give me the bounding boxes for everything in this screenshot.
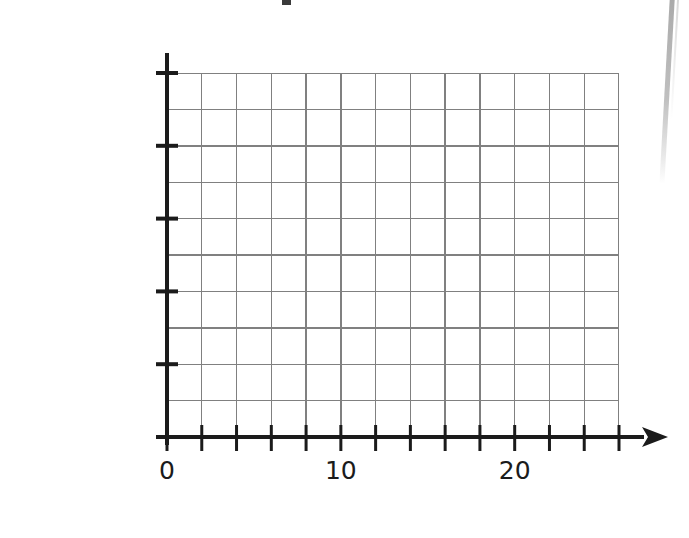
chart-gridlines (167, 73, 619, 437)
plot-area (167, 73, 619, 437)
x-axis-arrow-icon (642, 427, 668, 447)
cropped-title-remnant (282, 0, 291, 5)
x-axis-tick-label: 10 (325, 458, 357, 483)
x-axis-tick-label: 20 (499, 458, 531, 483)
worksheet-chart-canvas: FootballSwimmingDanceDramaTennis 01020 (0, 0, 689, 538)
y-axis-category-labels: FootballSwimmingDanceDramaTennis (0, 0, 162, 538)
x-axis-tick-label: 0 (159, 458, 175, 483)
